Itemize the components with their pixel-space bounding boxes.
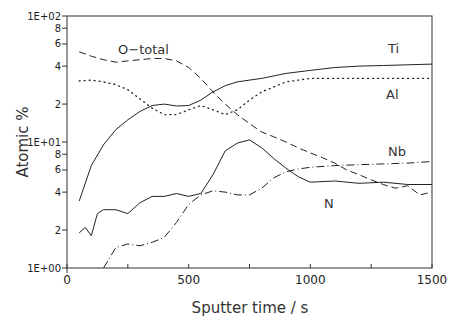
x-tick-label: 1500: [417, 273, 448, 287]
series-line-nb: [79, 140, 432, 236]
series-line-al: [79, 78, 432, 114]
x-tick-label: 0: [63, 273, 71, 287]
y-tick-label: 4: [55, 61, 61, 72]
axes: 1E+0024681E+0124681E+02050010001500: [27, 11, 447, 288]
y-tick-label: 8: [55, 149, 61, 160]
y-tick-label: 2: [55, 225, 61, 236]
y-tick-label: 1E+00: [27, 263, 61, 274]
series-label-nb: Nb: [388, 144, 406, 159]
x-axis-title: Sputter time / s: [192, 299, 309, 317]
series-label-o-total: O−total: [118, 42, 169, 57]
y-tick-label: 1E+01: [27, 137, 61, 148]
y-tick-label: 6: [55, 38, 61, 49]
series-label-n: N: [324, 196, 334, 211]
series-line-n: [104, 162, 433, 269]
series-label-ti: Ti: [387, 41, 399, 56]
series-lines: [79, 52, 432, 268]
depth-profile-chart: 1E+0024681E+0124681E+02050010001500 O−to…: [0, 0, 455, 324]
series-line-ti: [79, 64, 432, 201]
series-label-al: Al: [386, 87, 399, 102]
x-tick-label: 500: [177, 273, 200, 287]
y-tick-label: 8: [55, 23, 61, 34]
y-tick-label: 4: [55, 187, 61, 198]
y-tick-label: 6: [55, 164, 61, 175]
y-tick-label: 2: [55, 99, 61, 110]
x-tick-label: 1000: [295, 273, 326, 287]
y-tick-label: 1E+02: [27, 11, 61, 22]
series-line-o-total: [79, 52, 432, 195]
y-axis-title: Atomic %: [14, 106, 32, 177]
